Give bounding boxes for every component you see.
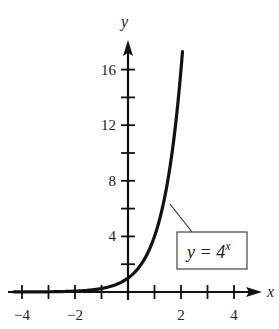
x-axis-label: x bbox=[266, 283, 274, 300]
x-tick-label: −4 bbox=[14, 307, 30, 323]
leader-line bbox=[170, 204, 192, 232]
y-tick-label: 4 bbox=[109, 228, 117, 244]
exponential-chart: −4−224481216 x y y = 4x bbox=[0, 0, 279, 329]
x-tick-label: 2 bbox=[177, 307, 185, 323]
x-tick-label: −2 bbox=[67, 307, 83, 323]
equation-base: y = 4 bbox=[185, 242, 225, 262]
x-tick-label: 4 bbox=[230, 307, 238, 323]
y-axis-label: y bbox=[119, 13, 129, 31]
equation-annotation: y = 4x bbox=[170, 204, 247, 269]
equation-label: y = 4x bbox=[185, 239, 231, 262]
y-tick-label: 12 bbox=[101, 117, 116, 133]
equation-exponent: x bbox=[224, 239, 231, 253]
y-tick-label: 16 bbox=[101, 62, 117, 78]
y-tick-label: 8 bbox=[109, 173, 117, 189]
exponential-curve bbox=[14, 52, 182, 292]
tick-labels: −4−224481216 bbox=[14, 62, 238, 323]
